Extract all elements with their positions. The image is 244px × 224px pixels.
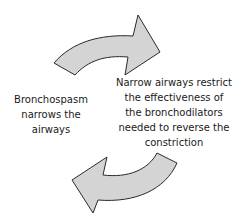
- node-text-line: the effectiveness of: [108, 90, 240, 105]
- node-text-line: constriction: [108, 135, 240, 150]
- node-text-line: airways: [2, 122, 100, 137]
- node-text-line: Narrow airways restrict: [108, 75, 240, 90]
- node-narrow-airways: Narrow airways restrict the effectivenes…: [108, 75, 240, 150]
- curved-arrow-left-icon: [72, 153, 177, 213]
- node-bronchospasm: Bronchospasm narrows the airways: [2, 92, 100, 137]
- node-text-line: needed to reverse the: [108, 120, 240, 135]
- node-text-line: the bronchodilators: [108, 105, 240, 120]
- node-text-line: narrows the: [2, 107, 100, 122]
- curved-arrow-right-icon: [54, 15, 160, 75]
- node-text-line: Bronchospasm: [2, 92, 100, 107]
